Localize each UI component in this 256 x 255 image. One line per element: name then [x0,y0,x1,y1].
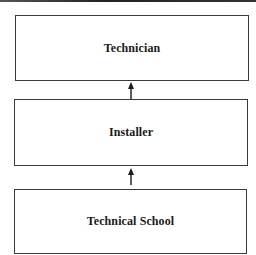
node-technical-school: Technical School [14,189,247,254]
arrow-up-icon [126,82,136,99]
arrow-up-icon [126,168,136,185]
node-installer: Installer [14,99,248,166]
node-label: Technical School [87,214,175,229]
node-label: Installer [109,125,153,140]
top-border-rule [0,0,256,2]
node-technician: Technician [15,15,249,81]
node-label: Technician [104,41,161,56]
